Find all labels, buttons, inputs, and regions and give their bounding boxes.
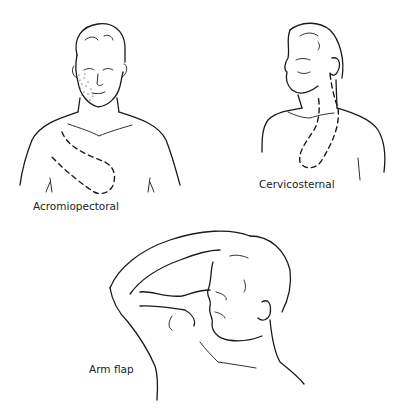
label-acromiopectoral: Acromiopectoral: [33, 200, 119, 212]
figure: Acromiopectoral Cervicosternal Arm flap: [0, 0, 400, 416]
label-cervicosternal: Cervicosternal: [259, 178, 335, 190]
label-arm-flap: Arm flap: [89, 363, 134, 375]
